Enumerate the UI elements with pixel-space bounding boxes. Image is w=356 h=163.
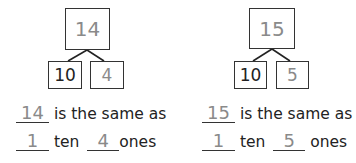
ones-part-box[interactable]: 4 <box>90 61 124 89</box>
problem-14: 14 10 4 14 is the same as 1 ten 4ones <box>0 0 178 163</box>
ten-word: ten <box>240 133 265 151</box>
ones-blank[interactable]: 4 <box>87 132 119 151</box>
whole-blank[interactable]: 14 <box>16 104 49 123</box>
ones-part-box[interactable]: 5 <box>276 61 309 89</box>
tens-part-box: 10 <box>48 61 82 89</box>
tens-blank[interactable]: 1 <box>202 132 235 151</box>
same-as-text: is the same as <box>54 105 166 123</box>
whole-box[interactable]: 14 <box>65 8 110 50</box>
ten-word: ten <box>54 133 79 151</box>
tens-part-box: 10 <box>234 61 267 89</box>
sentence-same-as: 15 is the same as <box>202 104 352 123</box>
tens-blank[interactable]: 1 <box>16 132 49 151</box>
sentence-tens-ones: 1 ten 5 ones <box>202 132 347 151</box>
problem-15: 15 10 5 15 is the same as 1 ten 5 ones <box>178 0 356 163</box>
ones-word: ones <box>119 133 156 151</box>
sentence-same-as: 14 is the same as <box>16 104 166 123</box>
ones-word: ones <box>310 133 347 151</box>
whole-box[interactable]: 15 <box>249 8 295 49</box>
ones-blank[interactable]: 5 <box>273 132 305 151</box>
same-as-text: is the same as <box>240 105 352 123</box>
whole-blank[interactable]: 15 <box>202 104 235 123</box>
sentence-tens-ones: 1 ten 4ones <box>16 132 156 151</box>
